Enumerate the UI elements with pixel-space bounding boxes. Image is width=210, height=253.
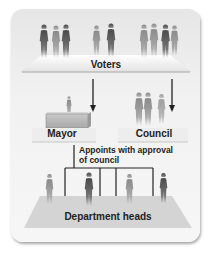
- voters-figures: [40, 23, 179, 58]
- arrow-voters-to-council: [169, 79, 175, 112]
- mayor-desk: [46, 112, 91, 128]
- appoints-caption: Appoints with approval of council: [79, 145, 173, 165]
- mayor-label: Mayor: [47, 128, 76, 139]
- diagram-stage: Voters Mayor Council Appoints with appro…: [0, 0, 210, 253]
- arrow-voters-to-mayor: [90, 79, 96, 112]
- department-heads-label: Department heads: [64, 211, 151, 222]
- voters-label: Voters: [91, 59, 121, 70]
- appoints-caption-line2: of council: [79, 155, 173, 165]
- council-figures: [135, 92, 166, 126]
- council-label: Council: [136, 128, 173, 139]
- appoints-caption-line1: Appoints with approval: [79, 145, 173, 155]
